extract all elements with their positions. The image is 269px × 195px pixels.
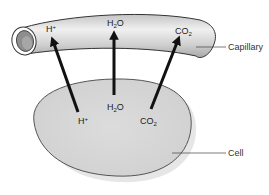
callout-label-capillary: Capillary — [228, 42, 264, 52]
callout-label-cell: Cell — [228, 148, 244, 158]
cell-body — [34, 79, 192, 176]
diagram-canvas: H+ H2O CO2 H+ H2O CO2 Capillary Cell — [0, 0, 269, 195]
